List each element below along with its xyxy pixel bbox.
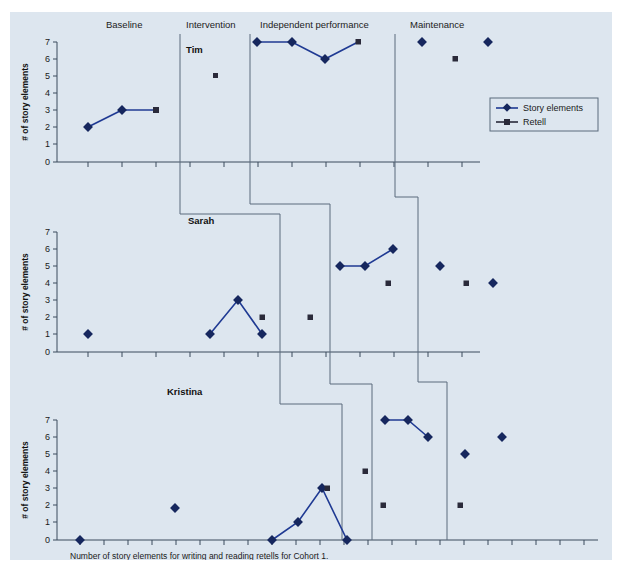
markers-sarah-retell <box>260 281 470 321</box>
phase-label-intervention: Intervention <box>186 19 236 30</box>
y-tick-1-tim: 1 <box>45 139 50 149</box>
y-tick-1-kristina: 1 <box>45 517 50 527</box>
y-tick-4-tim: 4 <box>45 88 50 98</box>
x-ticks-tim <box>88 162 462 167</box>
y-tick-7-kristina: 7 <box>45 415 50 425</box>
y-tick-6-sarah: 6 <box>45 244 50 254</box>
series-line-sarah-baseline <box>210 300 262 334</box>
figure-caption: Number of story elements for writing and… <box>70 551 328 560</box>
y-tick-7-tim: 7 <box>45 37 50 47</box>
y-tick-2-tim: 2 <box>45 122 50 132</box>
panel-kristina: Kristina 7 6 5 4 3 2 <box>20 372 598 545</box>
y-tick-2-kristina: 2 <box>45 500 50 510</box>
figure-canvas: Baseline Intervention Independent perfor… <box>10 12 612 560</box>
y-axis-title-sarah: # of story elements <box>20 253 30 331</box>
markers-sarah-story-elements <box>83 244 498 339</box>
y-ticks-sarah: 7 6 5 4 3 2 1 0 <box>45 227 57 357</box>
phase-divider-kristina-3 <box>418 372 447 540</box>
markers-tim-story-elements <box>83 37 493 132</box>
phase-label-maintenance: Maintenance <box>410 19 464 30</box>
y-tick-3-tim: 3 <box>45 105 50 115</box>
panel-subject-label-sarah: Sarah <box>188 215 215 226</box>
panel-subject-label-kristina: Kristina <box>167 386 203 397</box>
legend-label-story-elements: Story elements <box>523 103 584 113</box>
y-tick-3-sarah: 3 <box>45 295 50 305</box>
phase-divider-kristina-2 <box>330 372 372 540</box>
y-tick-1-sarah: 1 <box>45 329 50 339</box>
x-ticks-kristina <box>80 540 584 545</box>
panel-sarah: Sarah 7 6 5 4 3 2 <box>20 184 498 372</box>
y-tick-0-kristina: 0 <box>45 535 50 545</box>
y-tick-6-tim: 6 <box>45 54 50 64</box>
y-tick-2-sarah: 2 <box>45 312 50 322</box>
page-top-margin <box>0 0 622 12</box>
phase-divider-sarah-1 <box>180 184 280 372</box>
y-tick-5-sarah: 5 <box>45 261 50 271</box>
y-tick-4-kristina: 4 <box>45 466 50 476</box>
y-axis-title-tim: # of story elements <box>20 63 30 141</box>
markers-kristina-story-elements <box>75 415 507 545</box>
phase-divider-kristina-1 <box>280 372 342 540</box>
series-line-kristina-baseline <box>272 488 347 540</box>
y-tick-0-tim: 0 <box>45 157 50 167</box>
figure-page: Baseline Intervention Independent perfor… <box>0 0 622 573</box>
phase-divider-sarah-3 <box>395 184 418 372</box>
y-ticks-tim: 7 6 5 4 3 2 1 0 <box>45 37 57 167</box>
y-tick-0-sarah: 0 <box>45 347 50 357</box>
multi-panel-chart: Baseline Intervention Independent perfor… <box>10 12 612 560</box>
phase-divider-sarah-2 <box>250 184 330 372</box>
y-tick-5-tim: 5 <box>45 71 50 81</box>
series-line-tim-independent <box>257 42 358 59</box>
x-ticks-sarah <box>88 352 462 357</box>
markers-kristina-retell <box>325 469 464 509</box>
y-tick-6-kristina: 6 <box>45 432 50 442</box>
legend-label-retell: Retell <box>523 117 546 127</box>
phase-label-baseline: Baseline <box>106 19 142 30</box>
y-axis-title-kristina: # of story elements <box>20 441 30 519</box>
legend: Story elements Retell <box>490 98 598 131</box>
y-tick-4-sarah: 4 <box>45 278 50 288</box>
y-ticks-kristina: 7 6 5 4 3 2 1 0 <box>45 415 57 545</box>
panel-subject-label-tim: Tim <box>186 44 203 55</box>
series-line-tim-story-1 <box>88 110 122 127</box>
panel-tim: Tim 7 6 5 4 3 <box>20 34 493 184</box>
y-tick-5-kristina: 5 <box>45 449 50 459</box>
y-tick-3-kristina: 3 <box>45 483 50 493</box>
phase-label-independent-performance: Independent performance <box>260 19 369 30</box>
y-tick-7-sarah: 7 <box>45 227 50 237</box>
legend-marker-square-icon <box>504 119 510 125</box>
